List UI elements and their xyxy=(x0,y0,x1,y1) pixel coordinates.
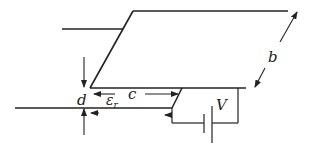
label-d: d xyxy=(77,91,87,109)
circuit-wire xyxy=(172,88,238,123)
label-voltage: V xyxy=(216,96,229,114)
lower-plate xyxy=(15,88,182,108)
capacitor-diagram: b c d εr V xyxy=(0,0,310,150)
label-b: b xyxy=(268,48,278,66)
label-c: c xyxy=(128,85,137,103)
battery-icon xyxy=(204,106,212,143)
upper-plate xyxy=(90,11,288,88)
label-epsilon: εr xyxy=(106,92,119,110)
